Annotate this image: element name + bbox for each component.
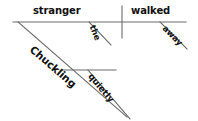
verb-label: walked (131, 6, 170, 16)
subject-label: stranger (33, 6, 81, 16)
diagram-lines-svg (0, 0, 198, 121)
sentence-diagram: stranger walked the away Chuckling quiet… (0, 0, 198, 121)
